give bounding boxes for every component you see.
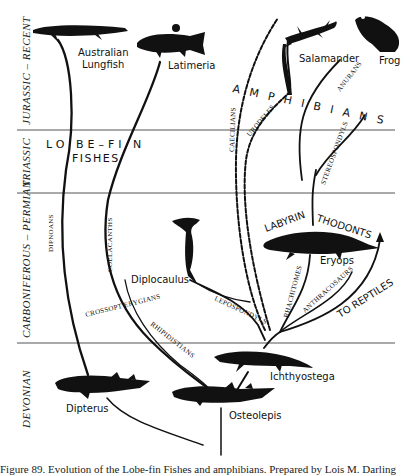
latimeria-silhouette	[137, 24, 205, 58]
frog-silhouette	[355, 15, 399, 52]
osteolepis-silhouette	[172, 382, 275, 406]
lineage-caecilians: CAECILIANS	[228, 107, 238, 152]
label-australian-lungfish-line2: Lungfish	[82, 59, 124, 70]
animal-silhouettes	[33, 15, 399, 406]
figure-caption: Figure 89. Evolution of the Lobe-fin Fis…	[0, 463, 414, 475]
lineage-urodeles: URODELES	[245, 103, 276, 138]
lineage-lepospondyls: LEPOSPONDYLS	[213, 295, 268, 326]
dipterus-osteolepis-branch	[107, 398, 203, 445]
lineage-anurans: ANURANS	[335, 60, 363, 93]
label-australian-lungfish-line1: Australian	[78, 47, 129, 58]
to-reptiles-arrowhead	[376, 232, 384, 242]
label-salamander: Salamander	[299, 53, 360, 64]
dipnoans-branch	[58, 40, 88, 375]
group-fishes: FISHES	[72, 152, 120, 165]
ichthyostega-silhouette	[214, 352, 313, 372]
lepospondyls-branch	[190, 280, 265, 340]
australian-lungfish-silhouette	[33, 25, 128, 44]
label-frog: Frog	[379, 55, 400, 66]
lineage-rhipidistians: RHIPIDISTIANS	[149, 320, 197, 360]
label-osteolepis: Osteolepis	[229, 410, 282, 421]
lineage-crossopterygians: CROSSOPT ERYGIANS	[85, 293, 162, 319]
group-lobe-fin: LO BE–FI N	[46, 138, 145, 151]
label-ichthyostega: Ichthyostega	[270, 371, 335, 382]
label-diplocaulus: Diplocaulus	[131, 274, 189, 285]
lineage-dipnoans: DIPNOANS	[47, 214, 55, 252]
group-labyrinthodonts-left: LABYRIN	[263, 209, 307, 234]
ichthyostega-stem	[264, 332, 280, 348]
dipterus-silhouette	[55, 372, 150, 399]
period-jurassic-recent: JURASSIC – RECENT	[20, 16, 32, 125]
group-labels: LO BE–FI N FISHES A M P H I B I A N S LA…	[46, 82, 388, 240]
period-labels: JURASSIC – RECENT TRIASSIC CARBONIFEROUS…	[20, 16, 32, 429]
period-devonian: DEVONIAN	[20, 370, 32, 429]
label-dipterus: Dipterus	[66, 403, 109, 414]
labyrinthodont-stem	[312, 170, 316, 225]
lineage-to-reptiles: TO REPTILES	[334, 277, 395, 321]
period-carboniferous-permian: CARBONIFEROUS – PERMIAN	[20, 180, 32, 338]
lineage-coelacanths: COELACANTHS	[106, 217, 114, 272]
coelacanths-branch	[105, 62, 210, 390]
period-triassic: TRIASSIC	[20, 138, 32, 187]
label-latimeria: Latimeria	[168, 60, 215, 71]
